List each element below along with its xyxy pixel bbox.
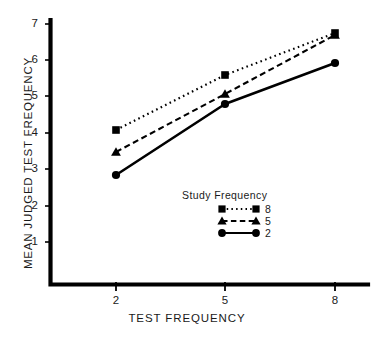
series-line-5 bbox=[111, 30, 340, 156]
legend-label-2: 2 bbox=[265, 227, 271, 239]
data-point-8-x2 bbox=[112, 126, 120, 134]
legend-swatch-marker-8-right bbox=[252, 205, 259, 212]
x-tick-label-5: 5 bbox=[213, 294, 237, 306]
series-line-8 bbox=[112, 29, 339, 134]
data-point-2-x5 bbox=[221, 100, 229, 108]
data-point-5-x5 bbox=[220, 89, 230, 98]
y-axis-title: MEAN JUDGED TEST FREQUENCY bbox=[22, 38, 34, 288]
legend-swatch-marker-2-left bbox=[218, 229, 226, 237]
y-tick-label-7: 7 bbox=[20, 17, 38, 29]
legend-label-5: 5 bbox=[265, 215, 271, 227]
legend-swatch-marker-2-right bbox=[252, 229, 260, 237]
chart-canvas bbox=[0, 0, 374, 337]
chart-figure: 7 6 5 4 3 2 1 2 5 8 TEST FREQUENCY MEAN … bbox=[0, 0, 374, 337]
legend-label-8: 8 bbox=[265, 203, 271, 215]
x-tick-label-8: 8 bbox=[323, 294, 347, 306]
data-point-2-x2 bbox=[112, 171, 120, 179]
data-point-2-x8 bbox=[331, 59, 339, 67]
data-point-8-x5 bbox=[221, 71, 229, 79]
legend-swatches bbox=[217, 205, 260, 237]
x-tick-label-2: 2 bbox=[104, 294, 128, 306]
legend-title: Study Frequency bbox=[182, 189, 267, 201]
axis-spine bbox=[51, 20, 369, 285]
data-point-5-x2 bbox=[111, 147, 121, 156]
legend-swatch-marker-8-left bbox=[218, 205, 225, 212]
x-axis-title: TEST FREQUENCY bbox=[0, 312, 374, 324]
